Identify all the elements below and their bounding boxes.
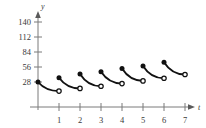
- y-axis-arrowhead: [35, 11, 41, 18]
- y-tick-label-56: 56: [23, 62, 32, 72]
- segment-5-closed-endpoint: [120, 66, 125, 71]
- y-tick-label-140: 140: [18, 17, 31, 27]
- curve-series-group: [36, 60, 188, 94]
- y-tick-label-112: 112: [19, 32, 31, 42]
- segment-1-curve: [38, 82, 59, 91]
- x-tick-labels: 1 2 3 4 5 6 7: [57, 115, 187, 125]
- x-tick-label-7: 7: [183, 115, 187, 125]
- axis-group: [30, 11, 195, 110]
- segment-7-curve: [164, 62, 185, 74]
- y-tick-labels: 28 56 84 112 140: [18, 17, 32, 87]
- segment-4-closed-endpoint: [99, 69, 104, 74]
- x-tick-label-2: 2: [78, 115, 82, 125]
- decay-graph-figure: 28 56 84 112 140 1 2 3 4 5 6 7 y t: [0, 0, 206, 128]
- x-tick-label-5: 5: [141, 115, 145, 125]
- segment-5-curve: [122, 69, 143, 81]
- segment-6-closed-endpoint: [141, 63, 146, 68]
- segment-7-closed-endpoint: [162, 60, 167, 65]
- segment-2-closed-endpoint: [57, 75, 62, 80]
- segment-3-closed-endpoint: [78, 71, 83, 76]
- segment-3-open-endpoint: [99, 84, 103, 88]
- x-axis-label: t: [198, 103, 201, 112]
- segment-7-open-endpoint: [183, 72, 187, 76]
- y-axis-label: y: [40, 2, 45, 11]
- segment-4-curve: [101, 72, 122, 84]
- y-tick-label-28: 28: [23, 77, 32, 87]
- x-axis-arrowhead: [188, 104, 195, 109]
- segment-2-open-endpoint: [78, 86, 82, 90]
- segment-5-open-endpoint: [141, 79, 145, 83]
- segment-3-curve: [80, 74, 101, 86]
- segment-4-open-endpoint: [120, 81, 124, 85]
- x-tick-label-1: 1: [57, 115, 61, 125]
- segment-1-closed-endpoint: [36, 80, 41, 85]
- x-tick-label-6: 6: [162, 115, 166, 125]
- segment-6-curve: [143, 66, 164, 78]
- y-tick-label-84: 84: [23, 47, 32, 57]
- plot-area: 28 56 84 112 140 1 2 3 4 5 6 7 y t: [0, 0, 206, 128]
- segment-1-open-endpoint: [57, 89, 61, 93]
- segment-6-open-endpoint: [162, 76, 166, 80]
- x-tick-label-3: 3: [99, 115, 103, 125]
- x-tick-label-4: 4: [120, 115, 125, 125]
- segment-2-curve: [59, 78, 80, 89]
